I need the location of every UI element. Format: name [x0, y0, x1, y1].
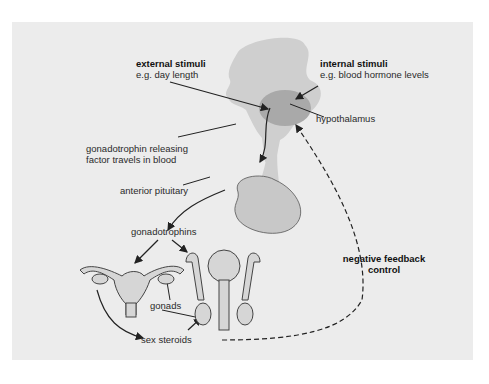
anterior-pituitary-label: anterior pituitary — [120, 185, 188, 196]
hypothalamus-label: hypothalamus — [316, 113, 375, 124]
feedback-label-line1: negative feedback — [334, 253, 434, 264]
anterior-pituitary-shape — [235, 176, 301, 233]
reproductive-hormone-diagram — [0, 0, 489, 384]
feedback-label-line2: control — [334, 264, 434, 275]
external-stimuli-title: external stimuli — [136, 58, 206, 69]
external-stimuli-example: e.g. day length — [136, 69, 198, 80]
gonads-label: gonads — [150, 300, 181, 311]
male-reproductive-organs — [186, 250, 260, 330]
gnrh-label-line1: gonadotrophin releasing — [86, 143, 188, 154]
internal-stimuli-title: internal stimuli — [320, 58, 388, 69]
internal-stimuli-example: e.g. blood hormone levels — [320, 69, 429, 80]
gonadotrophins-label: gonadotrophins — [131, 226, 197, 237]
sex-steroids-label: sex steroids — [141, 334, 192, 345]
gnrh-label-line2: factor travels in blood — [86, 154, 176, 165]
